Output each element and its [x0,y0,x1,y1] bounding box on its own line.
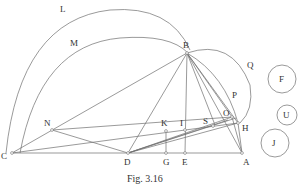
arc-Q [187,49,251,123]
geometry-figure: L M B Q P N C D G E A K I S O H F U J Fi… [0,0,299,188]
arc-L [6,10,190,154]
label-I: I [180,118,183,128]
point-N [51,129,54,132]
point-S [212,125,215,128]
label-P2: P [232,90,237,100]
label-A: A [243,157,250,167]
point-G [165,152,168,155]
label-F: F [279,74,284,84]
point-C [11,152,14,155]
label-O: O [223,108,230,118]
point-I [184,129,187,132]
point-K [165,130,168,133]
arc-M [20,37,188,153]
label-G: G [163,157,170,167]
point-D [127,152,130,155]
label-N: N [44,118,51,128]
line-BD [128,53,187,153]
point-B [186,52,189,55]
point-A [241,152,244,155]
point-H [237,122,240,125]
label-B: B [183,40,189,50]
label-J: J [272,138,276,148]
line-ND [52,130,128,153]
label-S: S [203,116,208,126]
label-K: K [161,118,168,128]
label-H: H [242,123,249,133]
line-BA [187,53,242,153]
line-BH [187,53,238,123]
point-E [184,152,187,155]
label-L: L [60,4,66,14]
label-U: U [283,110,290,120]
label-Q: Q [247,60,254,70]
label-C: C [1,151,7,161]
line-BS [187,53,215,125]
label-E: E [182,157,188,167]
line-BE [185,53,187,153]
point-O [231,116,234,119]
line-DK [128,123,238,153]
label-M: M [70,38,78,48]
line-CB [12,53,187,153]
figure-caption: Fig. 3.16 [127,173,163,184]
label-D: D [124,157,131,167]
